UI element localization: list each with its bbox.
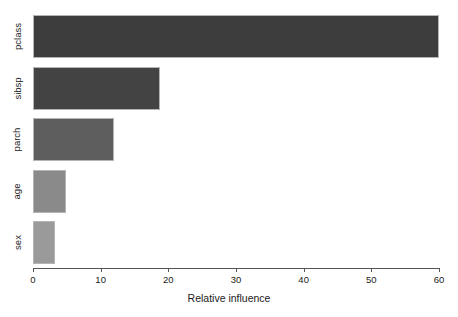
y-axis-label-pclass: pclass: [6, 15, 28, 58]
relative-influence-bar-chart: pclasssibspparchagesex 0102030405060 Rel…: [0, 0, 458, 317]
x-tick-label-0: 0: [18, 274, 48, 285]
y-axis-label-text: age: [11, 183, 22, 199]
x-tick-label-10: 10: [86, 274, 116, 285]
x-tick-label-60: 60: [424, 274, 454, 285]
plot-area: [33, 12, 439, 265]
x-tick-60: [439, 268, 440, 272]
y-axis-label-sibsp: sibsp: [6, 67, 28, 110]
y-axis-label-text: sex: [11, 235, 22, 250]
y-axis-label-sex: sex: [6, 221, 28, 264]
x-tick-40: [304, 268, 305, 272]
bar-rect-sex: [33, 221, 55, 264]
bar-rect-sibsp: [33, 67, 160, 110]
y-axis-label-text: pclass: [12, 23, 23, 50]
x-tick-30: [236, 268, 237, 272]
x-tick-label-30: 30: [221, 274, 251, 285]
bar-rect-age: [33, 170, 66, 213]
x-tick-0: [33, 268, 34, 272]
x-axis-title: Relative influence: [0, 292, 458, 304]
y-axis-label-text: sibsp: [12, 77, 23, 99]
x-tick-label-50: 50: [356, 274, 386, 285]
y-axis-label-parch: parch: [6, 118, 28, 161]
x-tick-label-40: 40: [289, 274, 319, 285]
y-axis-label-age: age: [6, 170, 28, 213]
bar-rect-parch: [33, 118, 114, 161]
y-axis-label-text: parch: [12, 128, 23, 152]
x-tick-20: [168, 268, 169, 272]
bar-rect-pclass: [33, 15, 439, 58]
x-tick-50: [371, 268, 372, 272]
x-tick-10: [101, 268, 102, 272]
x-tick-label-20: 20: [153, 274, 183, 285]
